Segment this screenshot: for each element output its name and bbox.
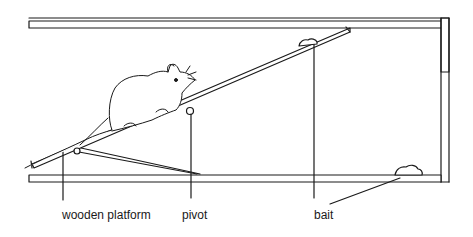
label-bait: bait bbox=[314, 208, 333, 222]
top-board bbox=[29, 21, 445, 28]
bottom-board bbox=[29, 175, 441, 182]
support-strut bbox=[79, 148, 200, 174]
right-wall bbox=[29, 18, 449, 182]
label-wooden-platform: wooden platform bbox=[62, 208, 151, 222]
bottom-bait bbox=[395, 165, 422, 175]
hinge-circle bbox=[74, 148, 80, 154]
mouse-illustration bbox=[25, 64, 196, 168]
pivot-circle bbox=[187, 108, 194, 115]
label-pivot: pivot bbox=[182, 208, 207, 222]
mouse-trap-diagram bbox=[0, 0, 473, 237]
